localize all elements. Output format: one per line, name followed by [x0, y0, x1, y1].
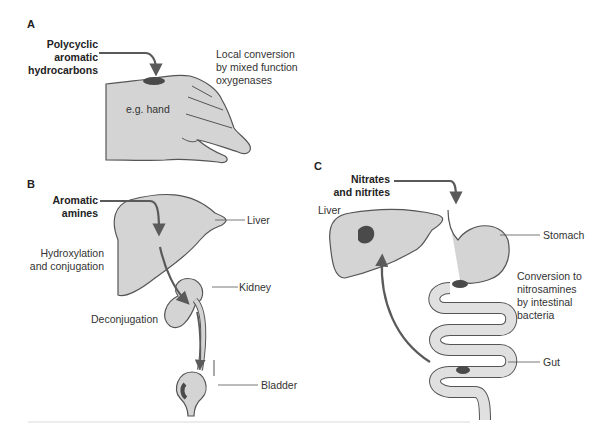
- bladder-shape: [176, 372, 206, 416]
- label-eg-hand: e.g. hand: [126, 103, 170, 116]
- label-liver-b: Liver: [247, 214, 270, 227]
- label-local-conversion: Local conversionby mixed functionoxygena…: [216, 48, 298, 87]
- lesion-icon: [452, 280, 468, 288]
- panel-letter-c: C: [314, 160, 322, 172]
- bottom-rule: [28, 421, 470, 423]
- lesion-icon: [456, 366, 470, 374]
- label-deconjugation: Deconjugation: [91, 313, 158, 326]
- arrow-a: [99, 53, 156, 70]
- lesion-icon: [143, 77, 165, 85]
- label-conversion-nitrosamines: Conversion tonitrosaminesby intestinalba…: [517, 270, 582, 322]
- label-aromatic-amines: Aromaticamines: [30, 194, 98, 220]
- label-bladder: Bladder: [261, 379, 297, 392]
- stomach-shape: [448, 210, 509, 283]
- label-kidney: Kidney: [239, 281, 271, 294]
- gut-shape: [434, 288, 511, 420]
- label-gut: Gut: [543, 356, 560, 369]
- arrow-c2: [382, 260, 430, 362]
- arrow-c1: [394, 181, 456, 198]
- panel-letter-a: A: [27, 18, 35, 30]
- label-hydroxylation: Hydroxylationand conjugation: [20, 247, 104, 273]
- panel-letter-b: B: [27, 178, 35, 190]
- label-nitrates: Nitratesand nitrites: [310, 173, 390, 199]
- label-polycyclic: Polycyclicaromatichydrocarbons: [20, 38, 98, 77]
- label-stomach: Stomach: [543, 229, 584, 242]
- liver-shape-c: [330, 209, 443, 278]
- liver-shape-b: [114, 194, 226, 295]
- label-liver-c: Liver: [318, 204, 341, 217]
- hand-shape: [106, 75, 250, 162]
